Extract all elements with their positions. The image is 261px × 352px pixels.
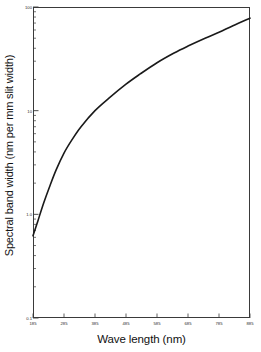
y-tick-label: 1.0 <box>21 212 32 217</box>
x-axis-ticks <box>33 314 250 319</box>
y-axis-minor-ticks <box>33 12 36 287</box>
data-series-line <box>33 18 250 236</box>
x-tick-label: 185 <box>30 321 37 326</box>
y-axis-ticks <box>33 7 39 318</box>
x-tick-label: 485 <box>123 321 130 326</box>
y-tick-label: 10 <box>21 108 32 113</box>
y-tick-label: 0.1 <box>21 316 32 321</box>
x-tick-label: 685 <box>185 321 192 326</box>
x-tick-label: 385 <box>92 321 99 326</box>
x-tick-label: 785 <box>216 321 223 326</box>
x-tick-label: 285 <box>61 321 68 326</box>
x-axis-title: Wave length (nm) <box>33 333 250 345</box>
x-tick-label: 585 <box>154 321 161 326</box>
x-tick-label: 885 <box>247 321 254 326</box>
chart-figure: 185285385485585685785885 0.11.010100 Spe… <box>0 0 261 352</box>
y-axis-title: Spectral band width (nm per mm slit widt… <box>0 0 18 311</box>
y-tick-label: 100 <box>21 5 32 10</box>
plot-svg <box>33 7 250 318</box>
